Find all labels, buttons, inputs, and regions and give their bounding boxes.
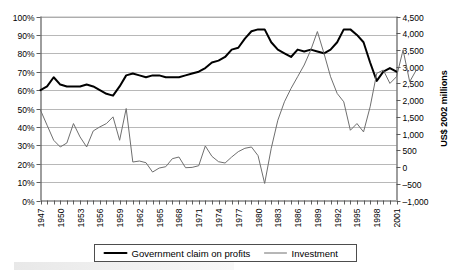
right-axis-tick-label: 4,000 <box>403 29 425 39</box>
series-line-government-claim-on-profits <box>41 29 397 95</box>
right-axis-tick-label: 2,500 <box>403 79 425 89</box>
page-caption-fragment <box>14 262 234 270</box>
x-axis-tick-label: 1947 <box>36 208 46 227</box>
x-axis-tick-label: 1965 <box>155 208 165 227</box>
x-axis-tick-label: 2001 <box>392 208 402 227</box>
axes-lines <box>41 17 398 202</box>
right-axis-tick-label: 1,000 <box>403 130 425 140</box>
right-axis-tick-label: 1,500 <box>403 113 425 123</box>
x-axis-tick-label: 1983 <box>273 208 283 227</box>
x-axis-tick-label: 1998 <box>372 208 382 227</box>
x-axis-tick-label: 1959 <box>115 208 125 227</box>
x-axis-tick-label: 1986 <box>293 208 303 227</box>
data-series-group <box>41 29 417 183</box>
x-axis-tick-label: 1989 <box>313 208 323 227</box>
x-axis-tick-label: 1953 <box>76 208 86 227</box>
chart-figure: 0%10%20%30%40%50%60%70%80%90%100% –1,000… <box>0 0 456 272</box>
right-axis-tick-label: 4,500 <box>403 13 425 23</box>
x-axis-tick-label: 1992 <box>333 208 343 227</box>
x-axis-tick-label: 1980 <box>254 208 264 227</box>
x-axis-tick-label: 1971 <box>194 208 204 227</box>
left-axis-tick-label: 20% <box>17 160 34 170</box>
gridlines-group <box>41 18 397 183</box>
right-axis-tick-label: 0 <box>403 163 408 173</box>
left-axis-tick-label: 50% <box>17 105 34 115</box>
x-axis-tick-label: 1950 <box>56 208 66 227</box>
left-axis-tick-label: 100% <box>13 13 35 23</box>
x-axis-tick-label: 1956 <box>95 208 105 227</box>
x-axis-tick-label: 1962 <box>135 208 145 227</box>
left-axis-tick-label: 70% <box>17 68 34 78</box>
left-axis-tick-label: 80% <box>17 49 34 59</box>
legend-label-investment: Investment <box>292 248 339 259</box>
left-axis-tick-label: 30% <box>17 141 34 151</box>
left-axis-tick-labels: 0%10%20%30%40%50%60%70%80%90%100% <box>13 13 35 207</box>
left-axis-ticks <box>37 18 41 202</box>
left-axis-tick-label: 60% <box>17 86 34 96</box>
legend-label-government-claim-on-profits: Government claim on profits <box>132 248 251 259</box>
chart-legend: Government claim on profitsInvestment <box>95 245 357 262</box>
left-axis-tick-label: 10% <box>17 178 34 188</box>
right-axis-tick-label: 500 <box>403 146 417 156</box>
right-axis-tick-label: 3,500 <box>403 46 425 56</box>
left-axis-tick-label: 40% <box>17 123 34 133</box>
x-axis-tick-label: 1974 <box>214 208 224 227</box>
right-axis-title: US$ 2002 millions <box>439 70 449 147</box>
right-axis-tick-label: –500 <box>403 180 422 190</box>
x-axis-tick-label: 1977 <box>234 208 244 227</box>
x-axis-tick-label: 1968 <box>174 208 184 227</box>
right-axis-tick-labels: –1,000–50005001,0001,5002,0002,5003,0003… <box>403 13 429 207</box>
x-axis-tick-label: 1995 <box>352 208 362 227</box>
x-axis-tick-labels: 1947195019531956195919621965196819711974… <box>36 208 402 227</box>
chart-plot-area: 0%10%20%30%40%50%60%70%80%90%100% –1,000… <box>0 0 456 272</box>
right-axis-tick-label: –1,000 <box>403 197 429 207</box>
right-axis-tick-label: 2,000 <box>403 96 425 106</box>
left-axis-tick-label: 0% <box>22 197 35 207</box>
left-axis-tick-label: 90% <box>17 31 34 41</box>
